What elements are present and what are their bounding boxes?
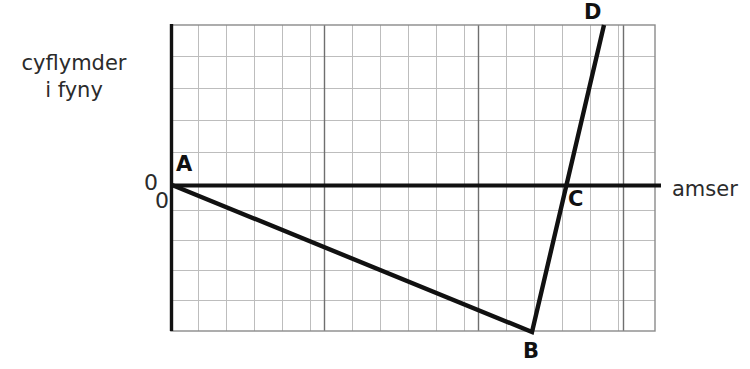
x-axis-label: amser (672, 176, 738, 203)
point-label-b: B (523, 339, 539, 363)
y-axis-label-line2: i fyny (4, 77, 144, 104)
grid-minor-vertical (199, 25, 619, 331)
point-label-a: A (176, 152, 192, 176)
y-axis-label-line1: cyflymder (4, 50, 144, 77)
velocity-curve (172, 25, 604, 332)
grid-major (325, 25, 624, 331)
grid-minor-horizontal (171, 57, 655, 301)
figure-canvas: cyflymder i fyny amser 0 0 A B C D (0, 0, 750, 369)
origin-label-x: 0 (155, 188, 169, 213)
point-label-c: C (568, 187, 583, 211)
point-label-d: D (584, 0, 601, 24)
y-axis-label: cyflymder i fyny (4, 50, 144, 104)
